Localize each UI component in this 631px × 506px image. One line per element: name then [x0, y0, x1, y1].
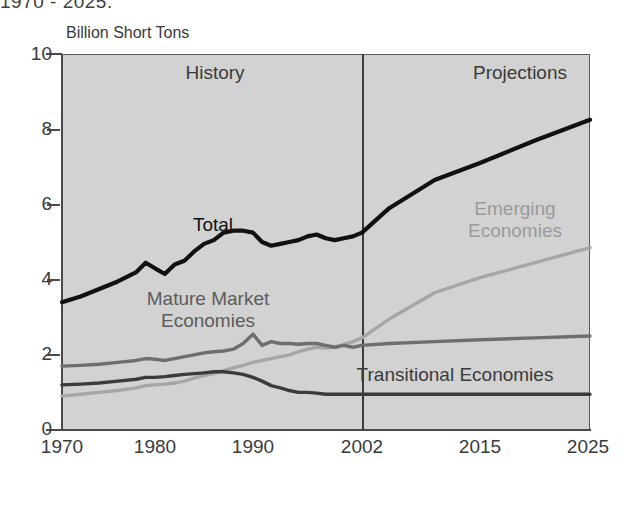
series-label-transitional-economies: Transitional Economies	[330, 364, 580, 386]
chart-canvas: 1970 - 2025. Billion Short Tons 10 8 6 4…	[0, 0, 631, 506]
series-label-mature-market-economies: Mature Market Economies	[118, 288, 298, 332]
line-mature-market-economies	[62, 334, 590, 366]
series-label-emerging-economies: Emerging Economies	[440, 198, 590, 242]
series-lines	[0, 0, 631, 506]
series-label-total: Total	[168, 214, 258, 236]
